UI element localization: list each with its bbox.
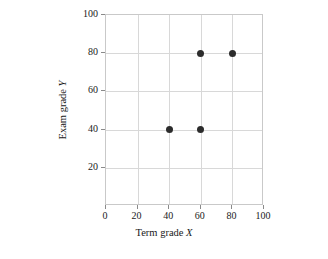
y-tick-mark <box>101 129 105 130</box>
x-axis-title-text: Term grade <box>136 227 187 238</box>
y-tick-mark <box>101 14 105 15</box>
x-tick-label: 0 <box>103 211 108 221</box>
data-point <box>229 50 236 57</box>
y-tick-label: 80 <box>88 47 98 57</box>
gridline-vertical <box>138 15 139 204</box>
x-tick-label: 60 <box>195 211 205 221</box>
gridline-horizontal <box>106 91 262 92</box>
y-tick-label: 40 <box>88 124 98 134</box>
x-tick-mark <box>168 205 169 209</box>
gridline-horizontal <box>106 53 262 54</box>
data-point <box>166 126 173 133</box>
gridline-horizontal <box>106 130 262 131</box>
y-tick-mark <box>101 90 105 91</box>
scatter-plot-figure: 020406080100 20406080100 Term grade X Ex… <box>0 0 328 259</box>
data-point <box>197 126 204 133</box>
y-tick-label: 100 <box>83 9 98 19</box>
x-tick-mark <box>231 205 232 209</box>
x-tick-mark <box>105 205 106 209</box>
y-tick-label: 60 <box>88 85 98 95</box>
gridline-vertical <box>169 15 170 204</box>
y-axis-title-text: Exam grade <box>57 86 68 139</box>
y-tick-mark <box>101 52 105 53</box>
x-axis-title: Term grade X <box>0 227 328 238</box>
x-tick-mark <box>200 205 201 209</box>
x-tick-label: 20 <box>132 211 142 221</box>
x-tick-label: 80 <box>226 211 236 221</box>
data-point <box>197 50 204 57</box>
x-tick-mark <box>263 205 264 209</box>
x-tick-mark <box>137 205 138 209</box>
gridline-horizontal <box>106 168 262 169</box>
x-tick-label: 100 <box>256 211 271 221</box>
x-axis-title-variable: X <box>186 227 192 238</box>
y-axis-title-variable: Y <box>57 81 68 87</box>
plot-area <box>105 14 263 205</box>
y-tick-label: 20 <box>88 162 98 172</box>
x-tick-label: 40 <box>163 211 173 221</box>
gridline-vertical <box>201 15 202 204</box>
y-tick-mark <box>101 167 105 168</box>
gridline-vertical <box>232 15 233 204</box>
y-axis-title: Exam grade Y <box>57 81 68 140</box>
